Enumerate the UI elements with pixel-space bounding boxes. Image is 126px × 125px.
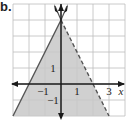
y-axis-up-arrow-icon: [58, 4, 64, 11]
x-tick-label: 3: [106, 85, 112, 97]
x-axis-left-arrow-icon: [11, 81, 18, 87]
x-axis-label: x: [118, 85, 124, 97]
x-tick-label: 1: [74, 85, 80, 97]
y-axis-down-arrow-icon: [58, 113, 64, 120]
y-tick-label: −1: [47, 94, 59, 106]
coordinate-graph: −1131−1x: [0, 0, 126, 125]
y-tick-label: 1: [50, 62, 56, 74]
